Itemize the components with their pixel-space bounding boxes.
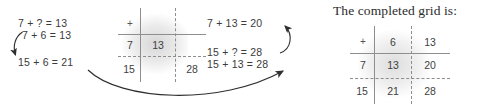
left-hook-arrow [14,32,22,55]
math-figure: 7 + ? = 13 7 + 6 = 13 15 + 6 = 21 7 + 13… [0,0,482,110]
arrow-overlay [0,0,482,110]
bottom-sweep-arrow [88,70,283,95]
right-hook-arrow [280,26,290,53]
